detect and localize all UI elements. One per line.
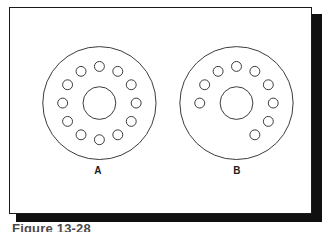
figure-screenshot: A B Figure 13-28 xyxy=(0,0,322,232)
bolt-hole-4 xyxy=(232,61,242,71)
bolt-hole-10 xyxy=(94,135,104,145)
bolt-hole-2 xyxy=(63,80,73,90)
bolt-hole-5 xyxy=(113,66,123,76)
bolt-hole-7 xyxy=(131,98,141,108)
bolt-hole-3 xyxy=(213,66,223,76)
part-label-a: A xyxy=(86,166,110,176)
bolt-hole-8 xyxy=(126,116,136,126)
bolt-hole-6 xyxy=(126,80,136,90)
figure-caption: Figure 13-28 xyxy=(12,222,91,232)
center-bore-circle xyxy=(220,87,253,120)
bolt-hole-1 xyxy=(195,98,205,108)
center-bore-circle xyxy=(83,87,116,120)
bolt-circle-part-a xyxy=(43,47,156,160)
bolt-hole-1 xyxy=(58,98,68,108)
outer-rim-circle xyxy=(43,47,156,160)
bolt-hole-6 xyxy=(263,80,273,90)
bolt-circle-drawings xyxy=(43,47,293,160)
bolt-hole-9 xyxy=(250,130,260,140)
bolt-hole-8 xyxy=(263,116,273,126)
bolt-hole-11 xyxy=(76,130,86,140)
figure-drawing-canvas xyxy=(10,8,311,213)
bolt-hole-4 xyxy=(94,61,104,71)
part-label-b: B xyxy=(225,166,249,176)
bolt-circle-part-b xyxy=(180,47,293,160)
outer-rim-circle xyxy=(180,47,293,160)
bolt-hole-5 xyxy=(250,66,260,76)
bolt-hole-12 xyxy=(63,116,73,126)
bolt-hole-7 xyxy=(268,98,278,108)
bolt-hole-2 xyxy=(200,80,210,90)
bolt-hole-3 xyxy=(76,66,86,76)
figure-frame: A B xyxy=(9,7,312,214)
bolt-hole-9 xyxy=(113,130,123,140)
